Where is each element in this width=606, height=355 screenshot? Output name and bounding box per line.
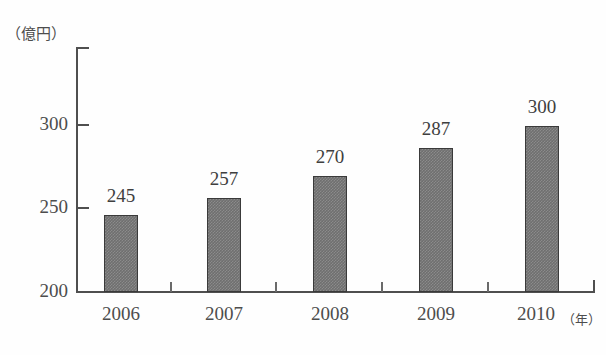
y-axis-line — [76, 47, 78, 293]
x-axis-end-cap — [593, 280, 595, 293]
x-axis-tick-1 — [170, 282, 172, 292]
x-axis-category-2008: 2008 — [300, 304, 360, 323]
y-axis-label-300: 300 — [8, 114, 68, 133]
y-axis-unit-label: （億円） — [6, 22, 66, 43]
bar-2006 — [104, 215, 138, 292]
value-label-2008: 270 — [300, 147, 360, 166]
y-axis-label-250: 250 — [8, 197, 68, 216]
y-axis-label-200: 200 — [8, 281, 68, 300]
x-axis-tick-4 — [487, 282, 489, 292]
x-axis-category-2010: 2010 — [506, 304, 566, 323]
y-axis-tick-250 — [78, 207, 89, 209]
y-axis-tick-300 — [78, 124, 89, 126]
x-axis-tick-3 — [381, 282, 383, 292]
value-label-2009: 287 — [406, 119, 466, 138]
value-label-2007: 257 — [194, 169, 254, 188]
x-axis-category-2007: 2007 — [194, 304, 254, 323]
x-axis-category-2006: 2006 — [91, 304, 151, 323]
x-axis-tick-2 — [275, 282, 277, 292]
value-label-2010: 300 — [512, 97, 572, 116]
bar-chart: （億円） 300 250 200 245 257 270 287 300 200… — [0, 0, 606, 355]
y-axis-top-cap — [76, 47, 89, 49]
bar-2010 — [525, 126, 559, 292]
value-label-2006: 245 — [91, 186, 151, 205]
bar-2008 — [313, 176, 347, 292]
x-axis-category-2009: 2009 — [406, 304, 466, 323]
bar-2007 — [207, 198, 241, 292]
bar-2009 — [419, 148, 453, 292]
x-axis-unit-label: （年） — [562, 309, 601, 328]
